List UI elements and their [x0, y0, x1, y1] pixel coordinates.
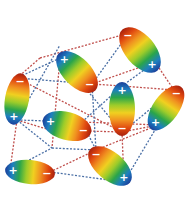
dipole-d7: −+: [81, 139, 139, 194]
negative-sign-icon: −: [117, 122, 126, 135]
positive-sign-icon: +: [117, 84, 126, 97]
dipole-ellipse: [81, 139, 139, 194]
negative-sign-icon: −: [123, 29, 132, 42]
negative-sign-icon: −: [172, 87, 181, 100]
positive-sign-icon: +: [151, 116, 160, 129]
negative-sign-icon: −: [79, 124, 88, 137]
negative-sign-icon: −: [92, 148, 101, 161]
negative-sign-icon: −: [42, 167, 51, 180]
positive-sign-icon: +: [60, 53, 69, 66]
dipole-d3: −+: [1, 71, 34, 126]
dipole-d8: +−: [4, 158, 56, 186]
repulsive-link-line: [52, 148, 96, 150]
dipole-ellipse: [111, 20, 169, 81]
negative-sign-icon: −: [85, 78, 94, 91]
positive-sign-icon: +: [46, 115, 55, 128]
dipole-network-diagram: −++−−++−−++−−++−: [0, 0, 187, 200]
dipole-d4: +−: [109, 82, 135, 136]
positive-sign-icon: +: [148, 58, 157, 71]
positive-sign-icon: +: [119, 171, 128, 184]
attractive-link-line: [40, 33, 129, 58]
positive-sign-icon: +: [8, 164, 17, 177]
dipole-d6: +−: [39, 106, 95, 146]
negative-sign-icon: −: [16, 75, 25, 88]
repulsive-link-line: [92, 84, 96, 150]
dipole-d1: −+: [111, 20, 169, 81]
positive-sign-icon: +: [9, 110, 18, 123]
